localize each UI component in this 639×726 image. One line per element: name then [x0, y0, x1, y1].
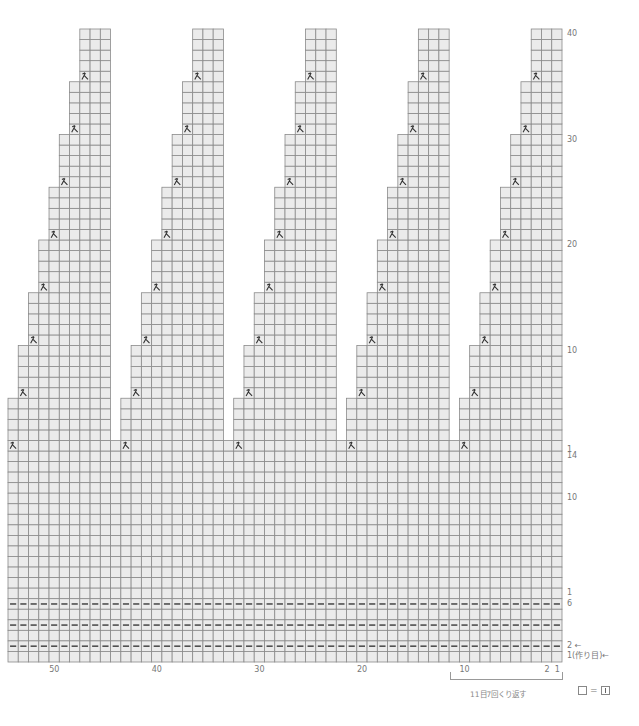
- chart-cell: [326, 356, 336, 367]
- chart-cell: [347, 419, 357, 430]
- chart-cell: [121, 630, 131, 641]
- chart-cell: [121, 651, 131, 662]
- chart-cell: [500, 282, 510, 293]
- chart-cell: [203, 324, 213, 335]
- chart-cell: [490, 272, 500, 283]
- chart-cell: [511, 504, 521, 515]
- chart-cell: [377, 303, 387, 314]
- chart-cell: [234, 504, 244, 515]
- chart-cell: [388, 419, 398, 430]
- chart-cell: [162, 609, 172, 620]
- chart-cell: [90, 525, 100, 536]
- chart-cell: [439, 430, 449, 441]
- chart-cell: [80, 293, 90, 304]
- chart-cell: [552, 103, 562, 114]
- chart-cell: [439, 103, 449, 114]
- chart-cell: [316, 377, 326, 388]
- chart-cell: [418, 377, 428, 388]
- chart-cell: [480, 472, 490, 483]
- chart-cell: [295, 177, 305, 188]
- chart-cell: [223, 514, 233, 525]
- chart-cell: [285, 451, 295, 462]
- chart-cell: [49, 388, 59, 399]
- chart-cell: [59, 388, 69, 399]
- chart-cell: [439, 462, 449, 473]
- chart-cell: [306, 82, 316, 93]
- chart-cell: [552, 472, 562, 483]
- chart-cell: [275, 187, 285, 198]
- chart-cell: [254, 430, 264, 441]
- chart-cell: [90, 71, 100, 82]
- chart-cell: [213, 261, 223, 272]
- chart-cell: [521, 219, 531, 230]
- chart-cell: [336, 451, 346, 462]
- chart-cell: [295, 240, 305, 251]
- chart-cell: [439, 198, 449, 209]
- chart-cell: [336, 514, 346, 525]
- chart-cell: [8, 472, 18, 483]
- chart-cell: [90, 103, 100, 114]
- chart-cell: [39, 567, 49, 578]
- chart-cell: [172, 261, 182, 272]
- chart-cell: [39, 651, 49, 662]
- chart-cell: [531, 578, 541, 589]
- chart-cell: [90, 82, 100, 93]
- chart-cell: [388, 504, 398, 515]
- chart-cell: [193, 166, 203, 177]
- chart-cell: [193, 92, 203, 103]
- chart-cell: [531, 229, 541, 240]
- chart-cell: [49, 578, 59, 589]
- chart-cell: [470, 535, 480, 546]
- chart-cell: [49, 398, 59, 409]
- chart-cell: [264, 356, 274, 367]
- chart-cell: [398, 430, 408, 441]
- chart-cell: [244, 346, 254, 357]
- chart-cell: [172, 398, 182, 409]
- chart-cell: [439, 419, 449, 430]
- chart-cell: [59, 472, 69, 483]
- chart-cell: [213, 440, 223, 451]
- chart-cell: [316, 578, 326, 589]
- chart-cell: [316, 166, 326, 177]
- chart-cell: [172, 314, 182, 325]
- chart-cell: [234, 630, 244, 641]
- chart-cell: [552, 293, 562, 304]
- chart-cell: [244, 557, 254, 568]
- chart-cell: [39, 356, 49, 367]
- chart-cell: [121, 483, 131, 494]
- chart-cell: [193, 272, 203, 283]
- chart-cell: [203, 92, 213, 103]
- chart-cell: [295, 145, 305, 156]
- chart-cell: [59, 419, 69, 430]
- chart-cell: [552, 356, 562, 367]
- chart-cell: [100, 272, 110, 283]
- chart-cell: [470, 514, 480, 525]
- chart-cell: [367, 578, 377, 589]
- chart-cell: [326, 198, 336, 209]
- chart-cell: [449, 493, 459, 504]
- chart-cell: [162, 504, 172, 515]
- chart-cell: [295, 272, 305, 283]
- chart-cell: [39, 377, 49, 388]
- chart-cell: [49, 282, 59, 293]
- chart-cell: [152, 609, 162, 620]
- chart-cell: [541, 367, 551, 378]
- chart-cell: [500, 324, 510, 335]
- chart-cell: [111, 440, 121, 451]
- chart-cell: [152, 567, 162, 578]
- chart-cell: [254, 388, 264, 399]
- chart-cell: [429, 451, 439, 462]
- chart-cell: [193, 40, 203, 51]
- chart-cell: [541, 261, 551, 272]
- chart-cell: [182, 187, 192, 198]
- chart-cell: [182, 588, 192, 599]
- chart-cell: [18, 356, 28, 367]
- chart-cell: [275, 398, 285, 409]
- chart-cell: [408, 546, 418, 557]
- chart-cell: [459, 557, 469, 568]
- chart-cell: [193, 208, 203, 219]
- chart-cell: [275, 388, 285, 399]
- chart-cell: [388, 451, 398, 462]
- chart-cell: [429, 187, 439, 198]
- chart-cell: [429, 483, 439, 494]
